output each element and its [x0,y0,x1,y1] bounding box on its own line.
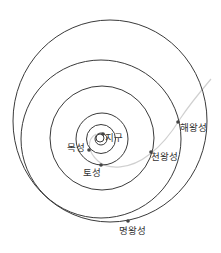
pluto-dot-icon [126,219,130,223]
label-saturn: 토성 [83,168,101,178]
label-jupiter: 목성 [67,143,85,153]
label-uranus: 천왕성 [151,152,178,162]
label-earth: 지구 [105,133,123,143]
jupiter-dot-icon [87,148,91,152]
label-pluto: 명왕성 [119,226,146,236]
label-neptune: 해왕성 [180,123,207,133]
